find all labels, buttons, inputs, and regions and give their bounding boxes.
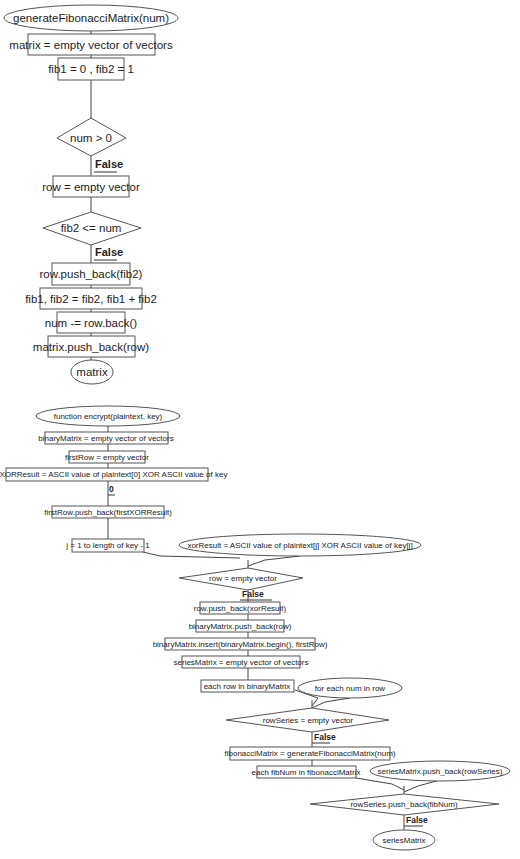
flowchart-canvas: generateFibonacciMatrix(num) matrix = em…: [0, 0, 520, 859]
process-label: binaryMatrix.push_back(row): [189, 622, 292, 631]
svg-text:False: False: [95, 246, 123, 258]
loop-label: each fibNum in fibonacciMatrix: [252, 768, 361, 777]
process-label: matrix.push_back(row): [33, 341, 149, 353]
decision-num-positive: num > 0: [57, 118, 126, 156]
process-label: seriesMatrix.push_back(rowSeries): [378, 767, 503, 776]
decision-row-empty: row = empty vector: [179, 568, 303, 590]
process-label: binaryMatrix.insert(binaryMatrix.begin()…: [153, 640, 328, 649]
process-push-first-xor: firstRow.push_back(firstXORResult): [44, 506, 172, 518]
process-insert-first-row: binaryMatrix.insert(binaryMatrix.begin()…: [153, 638, 328, 650]
process-label: fib1, fib2 = fib2, fib1 + fib2: [25, 293, 157, 305]
process-label: matrix = empty vector of vectors: [9, 39, 173, 51]
start-node: generateFibonacciMatrix(num): [4, 5, 178, 31]
process-label: firstRow.push_back(firstXORResult): [44, 508, 172, 517]
process-decrement-num: num -= row.back(): [45, 312, 138, 333]
decision-label: num > 0: [70, 132, 112, 144]
process-label: binaryMatrix = empty vector of vectors: [38, 434, 173, 443]
decision-label: rowSeries.push_back(fibNum): [350, 800, 457, 809]
svg-text:False: False: [242, 589, 264, 599]
process-init-row: row = empty vector: [42, 176, 140, 197]
process-label: fib1 = 0 , fib2 = 1: [48, 63, 134, 75]
loop-j: j = 1 to length of key - 1: [65, 539, 150, 552]
decision-label: row = empty vector: [209, 574, 277, 583]
decision-label: rowSeries = empty vector: [263, 716, 354, 725]
process-update-fib: fib1, fib2 = fib2, fib1 + fib2: [25, 288, 157, 309]
process-label: row.push_back(fib2): [40, 268, 143, 280]
process-init-first-row: firstRow = empty vector: [65, 451, 149, 463]
flowchart-encrypt: function encrypt(plaintext, key) binaryM…: [0, 406, 510, 850]
edge-label-zero: 0: [108, 484, 115, 495]
process-push-row-series: seriesMatrix.push_back(rowSeries): [370, 761, 510, 781]
loop-rows: each row in binaryMatrix: [201, 680, 294, 692]
edge-label-false: False: [240, 589, 272, 600]
edge-label-false: False: [312, 732, 336, 743]
process-xor-result: xorResult = ASCII value of plaintext[j] …: [179, 534, 421, 556]
process-label: num -= row.back(): [45, 317, 138, 329]
decision-label: fib2 <= num: [61, 222, 122, 234]
end-node: matrix: [71, 360, 113, 384]
end-node: seriesMatrix: [373, 830, 435, 850]
process-init-binary-matrix: binaryMatrix = empty vector of vectors: [38, 432, 173, 444]
end-label: seriesMatrix: [382, 836, 425, 845]
process-label: xorResult = ASCII value of plaintext[j] …: [187, 541, 412, 550]
svg-text:False: False: [406, 815, 428, 825]
process-push-fib2: row.push_back(fib2): [40, 263, 143, 285]
end-label: matrix: [76, 366, 108, 378]
svg-text:False: False: [314, 732, 336, 742]
edge-label-false: False: [94, 246, 123, 260]
process-init-series-matrix: seriesMatrix = empty vector of vectors: [174, 656, 309, 668]
process-push-row: matrix.push_back(row): [33, 336, 149, 357]
svg-text:False: False: [95, 158, 123, 170]
loop-label: for each num in row: [315, 684, 385, 693]
process-init-fib: fib1 = 0 , fib2 = 1: [48, 58, 134, 80]
loop-nums: for each num in row: [298, 678, 402, 698]
process-fib-matrix: fibonacciMatrix = generateFibonacciMatri…: [225, 747, 396, 760]
process-push-xor: row.push_back(xorResult): [194, 602, 287, 614]
flowchart-generate-fibonacci-matrix: generateFibonacciMatrix(num) matrix = em…: [4, 5, 178, 384]
process-push-binary-row: binaryMatrix.push_back(row): [189, 620, 292, 632]
edge-label-false: False: [94, 158, 123, 172]
edge-label-false: False: [404, 815, 428, 826]
process-label: firstRow = empty vector: [65, 453, 149, 462]
start-label: generateFibonacciMatrix(num): [13, 12, 169, 24]
connector: [356, 778, 404, 790]
process-init-matrix: matrix = empty vector of vectors: [9, 34, 173, 55]
loop-label: each row in binaryMatrix: [204, 682, 291, 691]
process-label: seriesMatrix = empty vector of vectors: [174, 658, 309, 667]
decision-fib2-le-num: fib2 <= num: [43, 212, 141, 245]
loop-fib-nums: each fibNum in fibonacciMatrix: [252, 766, 361, 778]
connector: [312, 698, 350, 708]
connector: [248, 556, 300, 566]
start-node: function encrypt(plaintext, key): [36, 406, 180, 426]
start-label: function encrypt(plaintext, key): [54, 412, 163, 421]
process-label: firstXORResult = ASCII value of plaintex…: [0, 470, 227, 479]
decision-push-fib-num: rowSeries.push_back(fibNum): [310, 794, 499, 815]
loop-label: j = 1 to length of key - 1: [65, 541, 150, 550]
decision-row-series-empty: rowSeries = empty vector: [226, 708, 389, 732]
process-label: row = empty vector: [42, 181, 140, 193]
process-label: row.push_back(xorResult): [194, 604, 287, 613]
process-first-xor: firstXORResult = ASCII value of plaintex…: [0, 468, 227, 481]
svg-text:0: 0: [109, 484, 114, 494]
process-label: fibonacciMatrix = generateFibonacciMatri…: [225, 749, 396, 758]
connector: [404, 780, 440, 792]
